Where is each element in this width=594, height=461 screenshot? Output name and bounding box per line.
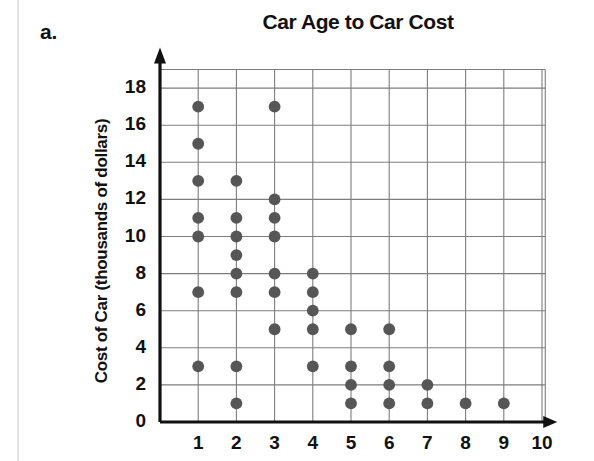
data-point xyxy=(307,268,319,280)
data-point xyxy=(345,379,357,391)
data-point xyxy=(460,398,472,410)
y-tick-label: 10 xyxy=(104,225,146,247)
data-point xyxy=(192,360,204,372)
x-tick-label: 5 xyxy=(331,432,371,454)
x-tick-label: 4 xyxy=(293,432,333,454)
x-tick-label: 9 xyxy=(484,432,524,454)
y-tick-label: 6 xyxy=(104,299,146,321)
data-point xyxy=(269,286,281,298)
y-tick-label: 18 xyxy=(104,76,146,98)
data-point xyxy=(307,323,319,335)
x-tick-label: 10 xyxy=(522,432,562,454)
axis-lines xyxy=(154,48,557,428)
x-axis-arrow xyxy=(543,416,557,428)
data-point xyxy=(192,212,204,224)
data-point xyxy=(383,379,395,391)
data-point xyxy=(192,138,204,150)
y-axis-arrow xyxy=(154,48,166,64)
data-point xyxy=(269,268,281,280)
x-tick-label: 8 xyxy=(446,432,486,454)
data-point xyxy=(269,323,281,335)
y-tick-label: 12 xyxy=(104,187,146,209)
data-point xyxy=(231,212,243,224)
data-point xyxy=(345,398,357,410)
data-point xyxy=(307,286,319,298)
y-tick-label: 2 xyxy=(104,373,146,395)
data-point xyxy=(498,398,510,410)
y-tick-label: 14 xyxy=(104,150,146,172)
scatter-plot xyxy=(0,0,594,461)
data-point xyxy=(192,231,204,243)
data-point xyxy=(383,323,395,335)
y-tick-label: 16 xyxy=(104,113,146,135)
data-point xyxy=(231,249,243,261)
data-point xyxy=(383,360,395,372)
data-point xyxy=(422,398,434,410)
y-tick-label: 8 xyxy=(104,262,146,284)
data-point xyxy=(231,398,243,410)
y-tick-label: 4 xyxy=(104,336,146,358)
data-point xyxy=(231,175,243,187)
x-tick-label: 1 xyxy=(178,432,218,454)
data-point xyxy=(383,398,395,410)
data-point xyxy=(269,231,281,243)
x-tick-label: 6 xyxy=(369,432,409,454)
data-point xyxy=(307,305,319,317)
data-point xyxy=(231,231,243,243)
data-point xyxy=(231,360,243,372)
data-point xyxy=(422,379,434,391)
data-point xyxy=(269,194,281,206)
x-tick-label: 3 xyxy=(255,432,295,454)
x-tick-label: 7 xyxy=(407,432,447,454)
data-point xyxy=(345,360,357,372)
data-point xyxy=(231,286,243,298)
data-point xyxy=(269,101,281,113)
data-point xyxy=(307,360,319,372)
data-point xyxy=(192,175,204,187)
data-point xyxy=(231,268,243,280)
data-point xyxy=(269,212,281,224)
x-tick-label: 2 xyxy=(216,432,256,454)
y-tick-label: 0 xyxy=(104,410,146,432)
data-point xyxy=(192,101,204,113)
data-point xyxy=(345,323,357,335)
data-point xyxy=(192,286,204,298)
